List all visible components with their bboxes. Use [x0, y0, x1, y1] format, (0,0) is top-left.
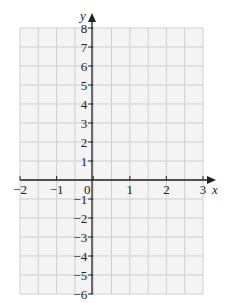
y-tick-label: 4: [81, 97, 88, 112]
y-tick-label: 7: [81, 40, 88, 55]
x-axis-label: x: [211, 182, 218, 197]
y-tick-label: 3: [81, 116, 88, 131]
y-tick-label: 5: [81, 78, 88, 93]
x-tick-label: −1: [50, 182, 64, 197]
y-axis-label: y: [78, 8, 86, 23]
x-tick-label: −2: [13, 182, 27, 197]
coordinate-grid: −2−10123−6−5−4−3−2−112345678 x y: [0, 0, 226, 303]
y-tick-label: 2: [81, 135, 88, 150]
y-tick-label: −2: [73, 211, 87, 226]
x-tick-label: 2: [163, 182, 170, 197]
y-tick-label: 6: [81, 59, 88, 74]
y-tick-label: −6: [73, 287, 87, 302]
y-tick-label: −3: [73, 230, 87, 245]
y-tick-label: 1: [81, 154, 88, 169]
x-tick-label: 1: [127, 182, 134, 197]
y-axis-arrow-icon: [88, 13, 96, 22]
y-tick-label: −1: [73, 192, 87, 207]
y-tick-label: −5: [73, 268, 87, 283]
x-tick-label: 3: [200, 182, 207, 197]
y-tick-label: −4: [73, 249, 87, 264]
